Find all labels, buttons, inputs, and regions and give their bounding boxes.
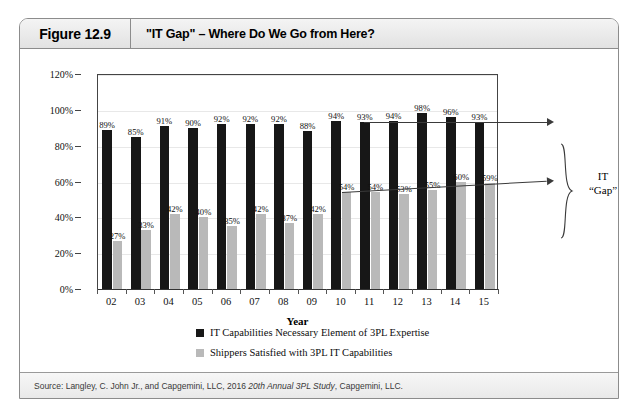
y-axis: 0%20%40%60%80%100%120% [20, 74, 97, 289]
chart-area: 0%20%40%60%80%100%120% 89%27%85%33%91%42… [20, 49, 620, 374]
bar-light-06 [227, 226, 237, 289]
bar-value-label: 93% [357, 112, 373, 122]
y-axis-tick-label: 60% [55, 176, 73, 187]
bar-value-label: 85% [128, 127, 144, 137]
y-axis-tick-mark [75, 74, 81, 75]
bar-value-label: 42% [167, 204, 183, 214]
x-axis-tick-mark [97, 289, 98, 294]
y-axis-tick-label: 20% [55, 248, 73, 259]
bar-value-label: 92% [214, 114, 230, 124]
bar-dark-14 [446, 117, 456, 289]
chart-legend: IT Capabilities Necessary Element of 3PL… [196, 327, 429, 367]
bar-light-03 [141, 230, 151, 289]
x-axis-tick-mark [240, 289, 241, 294]
legend-item-light: Shippers Satisfied with 3PL IT Capabilit… [196, 347, 429, 358]
x-axis-tick-label: 04 [163, 296, 174, 307]
y-axis-tick-label: 80% [55, 140, 73, 151]
upper-leader-line-arrow-icon [547, 118, 554, 126]
y-axis-tick-label: 120% [50, 69, 73, 80]
x-axis-tick-label: 05 [192, 296, 203, 307]
bar-value-label: 89% [99, 120, 115, 130]
bar-light-05 [199, 217, 209, 289]
y-axis-tick-mark [75, 182, 81, 183]
source-prefix: Source: Langley, C. John Jr., and Capgem… [34, 381, 248, 391]
x-axis-tick-mark [441, 289, 442, 294]
bar-light-04 [170, 214, 180, 289]
bar-light-15 [485, 183, 495, 289]
x-axis-tick-mark [355, 289, 356, 294]
x-axis-tick-mark [383, 289, 384, 294]
bar-light-08 [285, 223, 295, 289]
x-axis-tick-label: 09 [307, 296, 318, 307]
legend-swatch-icon [196, 329, 204, 337]
lower-leader-line-arrow-icon [547, 176, 554, 184]
x-axis-tick-labels: 0203040506070809101112131415 [97, 296, 498, 312]
bar-value-label: 40% [196, 207, 212, 217]
bar-value-label: 37% [281, 213, 297, 223]
it-gap-line-2: “Gap” [576, 183, 630, 197]
bar-value-label: 42% [253, 204, 269, 214]
source-band: Source: Langley, C. John Jr., and Capgem… [20, 372, 618, 398]
y-axis-tick-mark [75, 253, 81, 254]
x-axis-tick-label: 06 [221, 296, 232, 307]
x-axis-title: Year [97, 315, 498, 327]
bar-light-07 [256, 214, 266, 289]
plot-inner: 89%27%85%33%91%42%90%40%92%35%92%42%92%3… [98, 75, 497, 289]
bar-value-label: 60% [453, 172, 469, 182]
bar-light-10 [342, 192, 352, 289]
bar-light-11 [371, 192, 381, 289]
bar-light-09 [313, 214, 323, 289]
y-axis-tick-mark [75, 217, 81, 218]
x-axis-tick-mark [126, 289, 127, 294]
y-axis-tick-label: 40% [55, 212, 73, 223]
x-axis-tick-mark [154, 289, 155, 294]
bar-light-02 [113, 241, 123, 289]
legend-label-dark: IT Capabilities Necessary Element of 3PL… [210, 327, 429, 338]
bar-light-14 [456, 182, 466, 290]
x-axis-tick-mark [412, 289, 413, 294]
bar-value-label: 35% [224, 216, 240, 226]
x-axis-tick-label: 15 [478, 296, 489, 307]
x-axis-tick-mark [326, 289, 327, 294]
bar-light-13 [428, 190, 438, 289]
upper-leader-line [364, 122, 547, 123]
bar-dark-10 [331, 121, 341, 289]
bar-value-label: 94% [386, 111, 402, 121]
legend-label-light: Shippers Satisfied with 3PL IT Capabilit… [210, 347, 392, 358]
x-axis-tick-mark [298, 289, 299, 294]
page-title: "IT Gap" – Where Do We Go from Here? [131, 27, 375, 41]
bar-value-label: 93% [472, 112, 488, 122]
bar-dark-13 [417, 113, 427, 289]
bar-dark-12 [389, 121, 399, 289]
x-axis-tick-label: 11 [364, 296, 374, 307]
y-axis-tick-mark [75, 289, 81, 290]
it-gap-line-1: IT [576, 169, 630, 183]
x-axis-tick-mark [269, 289, 270, 294]
x-axis-tick-label: 08 [278, 296, 289, 307]
bar-value-label: 91% [157, 116, 173, 126]
bar-dark-02 [102, 130, 112, 289]
bar-value-label: 92% [271, 114, 287, 124]
x-axis-tick-mark [469, 289, 470, 294]
bar-dark-08 [274, 124, 284, 289]
figure-number: Figure 12.9 [20, 26, 130, 42]
bar-dark-11 [360, 122, 370, 289]
bar-dark-15 [475, 122, 485, 289]
x-axis-tick-label: 02 [106, 296, 117, 307]
bar-value-label: 59% [482, 173, 498, 183]
source-italic: 20th Annual 3PL Study [248, 381, 335, 391]
x-axis-tick-label: 10 [335, 296, 346, 307]
x-axis-tick-label: 14 [450, 296, 461, 307]
gridline [98, 147, 497, 148]
bar-value-label: 90% [185, 118, 201, 128]
gridline [98, 111, 497, 112]
y-axis-tick-label: 100% [50, 104, 73, 115]
figure-header: Figure 12.9 "IT Gap" – Where Do We Go fr… [20, 19, 618, 49]
plot-frame: 89%27%85%33%91%42%90%40%92%35%92%42%92%3… [97, 74, 498, 289]
x-axis-tick-mark [183, 289, 184, 294]
bar-value-label: 96% [443, 107, 459, 117]
bar-value-label: 42% [310, 204, 326, 214]
bar-value-label: 55% [425, 180, 441, 190]
legend-swatch-icon [196, 349, 204, 357]
bar-dark-06 [217, 124, 227, 289]
